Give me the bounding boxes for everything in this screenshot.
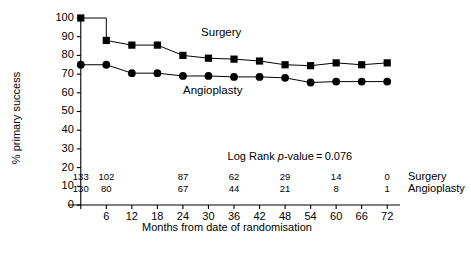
marker-angioplasty	[128, 69, 136, 77]
x-tick-label: 12	[126, 210, 138, 222]
y-tick-label: 40	[62, 123, 74, 135]
y-tick-label: 100	[55, 11, 73, 23]
log-rank-annotation: Log Rank p-value = 0.076	[228, 150, 353, 162]
y-tick-label: 70	[62, 67, 74, 79]
y-tick-label: 90	[62, 30, 74, 42]
marker-angioplasty	[205, 72, 213, 80]
marker-angioplasty	[307, 79, 315, 87]
numbers-at-risk-table: 1331301028087676244292114801SurgeryAngio…	[73, 170, 466, 194]
y-tick-label: 60	[62, 86, 74, 98]
risk-count-angioplasty: 67	[178, 183, 189, 194]
risk-count-surgery: 14	[331, 171, 342, 182]
marker-surgery	[256, 57, 263, 64]
marker-surgery	[179, 52, 186, 59]
marker-surgery	[281, 61, 288, 68]
marker-surgery	[307, 62, 314, 69]
marker-surgery	[154, 42, 161, 49]
marker-angioplasty	[256, 73, 264, 81]
risk-count-angioplasty: 21	[280, 183, 291, 194]
marker-surgery	[333, 59, 340, 66]
risk-count-angioplasty: 130	[73, 183, 89, 194]
x-tick-label: 72	[381, 210, 393, 222]
marker-surgery	[358, 61, 365, 68]
survival-curve-chart: 0102030405060708090100 61218243036424854…	[0, 0, 471, 253]
series-label-angioplasty: Angioplasty	[183, 84, 243, 96]
x-axis-title: Months from date of randomisation	[142, 221, 312, 233]
risk-count-surgery: 0	[385, 171, 390, 182]
y-tick-label: 50	[62, 104, 74, 116]
series-label-surgery: Surgery	[201, 26, 242, 38]
y-tick-label: 0	[68, 198, 74, 210]
marker-angioplasty	[153, 69, 161, 77]
marker-angioplasty	[102, 61, 110, 69]
risk-count-angioplasty: 8	[334, 183, 339, 194]
marker-angioplasty	[77, 61, 85, 69]
y-axis-title: % primary success	[10, 71, 22, 164]
risk-row-label-surgery: Surgery	[408, 170, 447, 182]
log-rank-prefix: Log Rank	[228, 150, 278, 162]
marker-angioplasty	[230, 73, 238, 81]
x-tick-label: 66	[356, 210, 368, 222]
marker-angioplasty	[179, 72, 187, 80]
risk-count-surgery: 102	[98, 171, 114, 182]
marker-surgery	[205, 55, 212, 62]
marker-surgery	[384, 59, 391, 66]
risk-count-surgery: 133	[73, 171, 89, 182]
marker-angioplasty	[358, 78, 366, 86]
x-tick-label: 60	[330, 210, 342, 222]
risk-count-surgery: 87	[178, 171, 189, 182]
risk-count-angioplasty: 1	[385, 183, 390, 194]
x-tick-label: 6	[103, 210, 109, 222]
log-rank-value: -value = 0.076	[284, 150, 352, 162]
marker-surgery	[128, 42, 135, 49]
annotations-group: Log Rank p-value = 0.076	[228, 150, 353, 162]
chart-container: 0102030405060708090100 61218243036424854…	[0, 0, 471, 253]
log-rank-p-italic: p	[277, 150, 284, 162]
marker-angioplasty	[281, 74, 289, 82]
risk-count-angioplasty: 80	[101, 183, 112, 194]
risk-count-surgery: 29	[280, 171, 291, 182]
risk-count-angioplasty: 44	[229, 183, 240, 194]
y-tick-label: 80	[62, 48, 74, 60]
risk-count-surgery: 62	[229, 171, 240, 182]
marker-surgery	[103, 37, 110, 44]
x-axis: 61218243036424854606672	[68, 205, 400, 222]
risk-row-label-angioplasty: Angioplasty	[408, 182, 465, 194]
marker-angioplasty	[332, 78, 340, 86]
y-tick-label: 30	[62, 142, 74, 154]
marker-angioplasty	[383, 78, 391, 86]
marker-surgery	[77, 14, 84, 21]
marker-surgery	[230, 56, 237, 63]
